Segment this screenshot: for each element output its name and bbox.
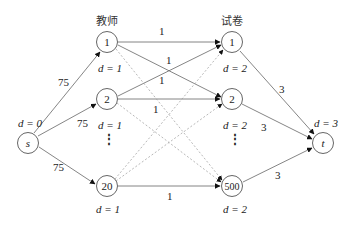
teacher-1-distance: d = 1 (98, 63, 122, 74)
paper-node-2: 2 (221, 88, 243, 110)
capacity-t2-p2: 1 (153, 104, 159, 115)
edge-p2-t (242, 104, 312, 139)
capacity-s-teacher20: 75 (53, 162, 64, 173)
source-distance: d = 0 (18, 118, 42, 129)
paper-node-2-label: 2 (229, 93, 235, 105)
paper-node-1: 1 (221, 31, 243, 53)
sink-node: t (312, 132, 334, 154)
teacher-node-1: 1 (96, 31, 118, 53)
source-node-label: s (26, 137, 30, 149)
capacity-s-teacher1: 75 (58, 77, 69, 88)
paper-node-1-label: 1 (229, 36, 235, 48)
capacity-p500-t: 3 (275, 170, 281, 181)
teacher-node-20: 20 (96, 175, 118, 197)
paper-ellipsis: ⋮ (229, 137, 235, 142)
teacher-node-20-label: 20 (102, 180, 113, 192)
capacity-t20-p500: 1 (167, 191, 173, 202)
paper-node-500-label: 500 (225, 181, 240, 192)
teacher-ellipsis: ⋮ (103, 137, 109, 142)
edge-s-teacher20 (39, 147, 95, 184)
edge-t20-p2-dashed (116, 104, 222, 181)
teacher-node-2-label: 2 (104, 93, 110, 105)
teacher-node-1-label: 1 (104, 36, 110, 48)
sink-node-label: t (321, 137, 324, 149)
teachers-column-title: 教师 (96, 12, 118, 28)
sink-distance: d = 3 (314, 118, 338, 129)
paper-node-500: 500 (221, 175, 243, 197)
edge-t20-p1-dashed (115, 50, 223, 179)
capacity-t2-p1: 1 (159, 75, 165, 86)
flow-network-diagram (0, 0, 351, 227)
teacher-node-2: 2 (96, 88, 118, 110)
papers-column-title: 试卷 (221, 12, 243, 28)
paper-1-distance: d = 2 (223, 63, 247, 74)
paper-2-distance: d = 2 (223, 120, 247, 131)
edge-s-teacher1 (34, 52, 100, 133)
capacity-p1-t: 3 (279, 84, 285, 95)
source-node: s (17, 132, 39, 154)
teacher-2-distance: d = 1 (98, 120, 122, 131)
capacity-s-teacher2: 75 (77, 118, 88, 129)
capacity-p2-t: 3 (261, 122, 267, 133)
teacher-20-distance: d = 1 (96, 204, 120, 215)
capacity-t1-p2: 1 (166, 55, 172, 66)
paper-500-distance: d = 2 (223, 204, 247, 215)
capacity-t1-p1: 1 (159, 26, 165, 37)
